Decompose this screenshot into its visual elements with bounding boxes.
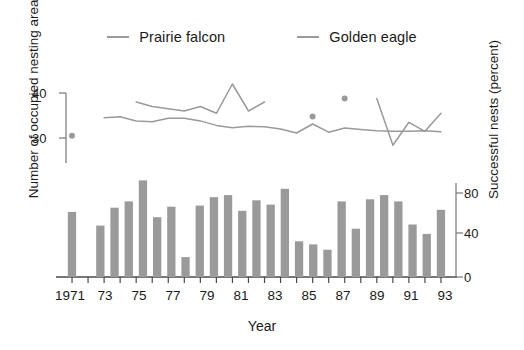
bar bbox=[68, 212, 76, 277]
line-series bbox=[104, 117, 441, 133]
plot-canvas bbox=[0, 0, 524, 350]
bar bbox=[295, 241, 303, 277]
bar bbox=[224, 195, 232, 277]
bar bbox=[167, 207, 175, 277]
bar bbox=[110, 208, 118, 277]
chart-figure: Prairie falcon Golden eagle Number of oc… bbox=[0, 0, 524, 350]
bar bbox=[281, 189, 289, 277]
bar bbox=[252, 200, 260, 277]
bar bbox=[210, 197, 218, 277]
bar bbox=[323, 250, 331, 277]
line-series bbox=[377, 98, 441, 145]
bar bbox=[352, 229, 360, 277]
bar bbox=[238, 211, 246, 277]
data-point-marker bbox=[342, 95, 348, 101]
bar bbox=[309, 244, 317, 277]
bar bbox=[366, 199, 374, 277]
bar bbox=[96, 226, 104, 277]
data-point-marker bbox=[69, 133, 75, 139]
bar bbox=[267, 205, 275, 277]
bar bbox=[125, 201, 133, 277]
bar bbox=[394, 201, 402, 277]
bar bbox=[423, 234, 431, 277]
bar bbox=[153, 217, 161, 277]
bar bbox=[338, 201, 346, 277]
line-series bbox=[136, 84, 264, 113]
bar bbox=[380, 195, 388, 277]
bar bbox=[437, 210, 445, 277]
bar bbox=[181, 257, 189, 277]
bar bbox=[139, 180, 147, 277]
bar bbox=[408, 225, 416, 278]
data-point-marker bbox=[310, 113, 316, 119]
bar bbox=[196, 206, 204, 277]
